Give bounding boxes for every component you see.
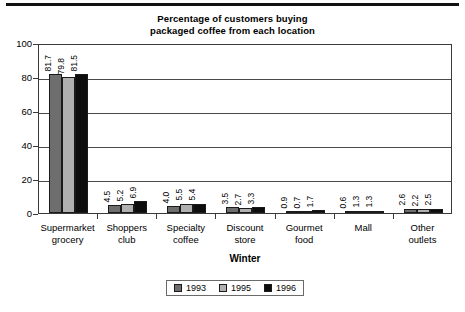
y-axis-tick-label: 60 <box>2 107 32 117</box>
bar-slot: 0.9 <box>286 45 299 213</box>
y-axis-tick <box>33 180 38 181</box>
y-axis-tick-label: 100 <box>2 39 32 49</box>
bar[interactable] <box>62 77 75 213</box>
bar-value-label: 2.6 <box>398 194 407 206</box>
bar[interactable] <box>239 208 252 213</box>
x-axis-category-label: Mall <box>334 222 393 234</box>
category-separator-tick <box>215 214 216 219</box>
bar-value-label: 2.2 <box>411 194 420 206</box>
x-axis-category-label-line: food <box>275 234 334 246</box>
y-axis-tick <box>33 146 38 147</box>
bar[interactable] <box>417 209 430 213</box>
bar[interactable] <box>75 74 88 213</box>
bar[interactable] <box>180 204 193 213</box>
bar-group-bars: 2.62.22.5 <box>394 45 453 213</box>
y-axis-tick-label: 0 <box>2 209 32 219</box>
bar-value-label: 2.7 <box>233 194 242 206</box>
top-divider-rule <box>6 3 459 6</box>
bar-slot: 6.9 <box>134 45 147 213</box>
x-axis-category-label-line: outlets <box>393 234 452 246</box>
bar-value-label: 5.5 <box>174 189 183 201</box>
bar-group: 4.05.55.4 <box>157 45 216 213</box>
bar-slot: 2.2 <box>417 45 430 213</box>
y-axis-tick <box>33 44 38 45</box>
chart-legend: 199319951996 <box>166 280 304 296</box>
bar-slot: 2.7 <box>239 45 252 213</box>
bar-group: 3.52.73.3 <box>216 45 275 213</box>
bar[interactable] <box>299 211 312 213</box>
bar-value-label: 79.8 <box>56 58 65 75</box>
bar[interactable] <box>134 201 147 213</box>
x-axis-category-label-line: Mall <box>334 222 393 234</box>
bar[interactable] <box>358 211 371 213</box>
bar[interactable] <box>404 209 417 213</box>
bar[interactable] <box>193 204 206 213</box>
bar[interactable] <box>167 206 180 213</box>
bar-value-label: 1.7 <box>306 195 315 207</box>
bar[interactable] <box>49 74 62 213</box>
bar-value-label: 0.7 <box>293 196 302 208</box>
bar-group-bars: 81.779.881.5 <box>39 45 98 213</box>
bar[interactable] <box>226 207 239 213</box>
bar-group: 2.62.22.5 <box>394 45 453 213</box>
x-axis-category-label-line: coffee <box>156 234 215 246</box>
bar-slot: 1.3 <box>371 45 384 213</box>
x-axis-category-label-line: Specialty <box>156 222 215 234</box>
bar-value-label: 6.9 <box>128 186 137 198</box>
bar[interactable] <box>345 211 358 213</box>
x-axis-category-label: Discountstore <box>215 222 274 245</box>
bar-value-label: 0.6 <box>339 196 348 208</box>
bar[interactable] <box>108 205 121 213</box>
category-separator-tick <box>156 214 157 219</box>
bar-value-label: 3.5 <box>220 192 229 204</box>
bar[interactable] <box>430 209 443 213</box>
x-axis-category-label-line: store <box>215 234 274 246</box>
legend-item[interactable]: 1993 <box>174 283 206 293</box>
bar-group-bars: 4.55.26.9 <box>98 45 157 213</box>
bar-group: 0.90.71.7 <box>276 45 335 213</box>
x-axis-category-label-line: club <box>97 234 156 246</box>
bar-value-label: 4.5 <box>102 191 111 203</box>
bar-group-bars: 4.05.55.4 <box>157 45 216 213</box>
bar-value-label: 4.0 <box>161 191 170 203</box>
legend-item[interactable]: 1995 <box>219 283 251 293</box>
y-axis-tick <box>33 214 38 215</box>
y-axis-tick-label: 20 <box>2 175 32 185</box>
y-axis-tick <box>33 112 38 113</box>
legend-item[interactable]: 1996 <box>264 283 296 293</box>
x-axis-category-label-line: grocery <box>38 234 97 246</box>
bar-value-label: 81.7 <box>43 55 52 72</box>
legend-swatch-icon <box>264 284 272 292</box>
bar-slot: 5.4 <box>193 45 206 213</box>
category-separator-tick <box>275 214 276 219</box>
bar-value-label: 5.2 <box>115 189 124 201</box>
x-axis-title: Winter <box>38 253 452 264</box>
y-axis-tick <box>33 78 38 79</box>
legend-label: 1995 <box>231 283 251 293</box>
bar-group: 0.61.31.3 <box>335 45 394 213</box>
x-axis-category-label-line: Other <box>393 222 452 234</box>
x-axis-category-label-line: Supermarket <box>38 222 97 234</box>
bar[interactable] <box>312 210 325 213</box>
legend-swatch-icon <box>174 284 182 292</box>
bar[interactable] <box>252 207 265 213</box>
bar-slot: 81.5 <box>75 45 88 213</box>
x-axis-category-label: Supermarketgrocery <box>38 222 97 245</box>
bar-slot: 1.7 <box>312 45 325 213</box>
legend-label: 1993 <box>186 283 206 293</box>
legend-swatch-icon <box>219 284 227 292</box>
bar-slot: 3.3 <box>252 45 265 213</box>
x-axis-category-label-line: Discount <box>215 222 274 234</box>
bar[interactable] <box>371 211 384 213</box>
chart-title-line-1: Percentage of customers buying <box>0 13 465 25</box>
bar[interactable] <box>121 204 134 213</box>
chart-title: Percentage of customers buying packaged … <box>0 13 465 37</box>
y-axis-tick-label: 80 <box>2 73 32 83</box>
bar[interactable] <box>286 211 299 213</box>
bar-value-label: 1.3 <box>352 196 361 208</box>
plot-area: 81.779.881.54.55.26.94.05.55.43.52.73.30… <box>38 44 452 214</box>
x-axis-category-label: Specialtycoffee <box>156 222 215 245</box>
x-axis-category-label: Gourmetfood <box>275 222 334 245</box>
x-axis-category-label: Otheroutlets <box>393 222 452 245</box>
category-separator-tick <box>393 214 394 219</box>
